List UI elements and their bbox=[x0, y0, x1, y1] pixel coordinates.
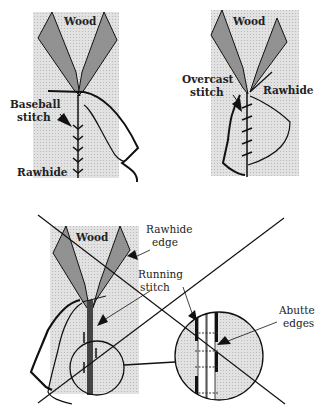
label-wood: Wood bbox=[63, 15, 97, 27]
label-abutte-edges-1: Abutte bbox=[278, 304, 315, 316]
label-baseball-stitch-2: stitch bbox=[17, 111, 51, 123]
arrow-icon bbox=[188, 310, 197, 321]
label-running-stitch-2: stitch bbox=[140, 281, 170, 293]
panel-baseball-stitch: Wood Baseball stitch Rawhide bbox=[10, 12, 138, 182]
label-rawhide-edge-1: Rawhide bbox=[146, 223, 192, 235]
label-running-stitch-1: Running bbox=[138, 268, 183, 280]
label-abutte-edges-2: edges bbox=[283, 317, 314, 329]
label-rawhide-edge-2: edge bbox=[152, 236, 178, 248]
label-wood: Wood bbox=[232, 15, 266, 27]
label-rawhide: Rawhide bbox=[17, 166, 68, 178]
stitching-diagram: Wood Baseball stitch Rawhide Wood Overca… bbox=[0, 0, 329, 415]
label-overcast-stitch-1: Overcast bbox=[182, 73, 234, 85]
label-wood: Wood bbox=[75, 231, 109, 243]
running-stitch-seam bbox=[87, 300, 93, 395]
panel-running-stitch: Wood Rawhide edge Running stitch Abutte … bbox=[31, 215, 315, 406]
label-baseball-stitch-1: Baseball bbox=[10, 98, 60, 110]
label-rawhide: Rawhide bbox=[263, 84, 314, 96]
label-overcast-stitch-2: stitch bbox=[190, 86, 224, 98]
panel-overcast-stitch: Wood Overcast stitch Rawhide bbox=[182, 10, 314, 177]
